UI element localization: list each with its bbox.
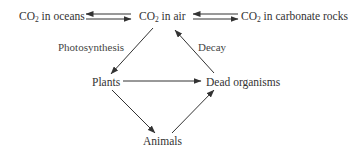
arrow-plants-to-animals (112, 90, 155, 133)
node-plants: Plants (92, 75, 120, 89)
node-co2-in-air: CO2 in air (139, 9, 186, 23)
node-co2-in-oceans: CO2 in oceans (19, 9, 85, 23)
edge-label-decay: Decay (198, 40, 226, 54)
node-dead-organisms: Dead organisms (206, 75, 280, 89)
arrow-animals-to-dead (172, 90, 214, 133)
edge-label-photosynthesis: Photosynthesis (58, 40, 124, 54)
node-animals: Animals (143, 134, 182, 148)
node-co2-in-carbonate-rocks: CO2 in carbonate rocks (241, 9, 348, 23)
